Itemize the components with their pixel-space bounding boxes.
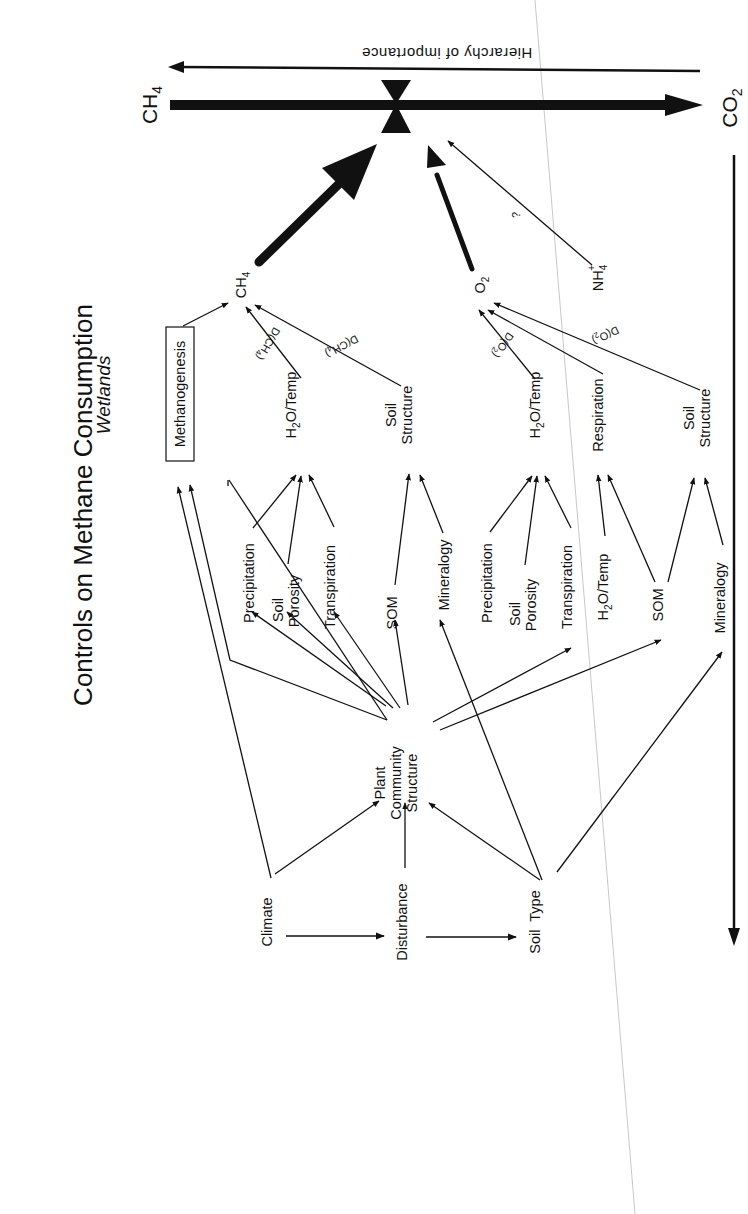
node-ch4-soil-porosity-line1: Soil (270, 598, 286, 622)
node-ch4: CH4 (233, 271, 252, 298)
node-o2: O2 (472, 276, 491, 293)
node-o2-transpiration: Transpiration (559, 545, 575, 629)
o2-proximal-arrow (427, 145, 472, 269)
node-o2-precipitation: Precipitation (479, 543, 495, 623)
ch4-diffusion-label-1: D(CH4) (252, 324, 283, 362)
node-ch4-transpiration: Transpiration (322, 545, 338, 629)
o2-diffusion-label-2: D(O2) (589, 321, 621, 347)
node-o2-h2o-temp: H2O/Temp (527, 372, 546, 439)
node-plant-community-line3: Structure (404, 754, 420, 813)
sink-co2-label: CO2 (718, 88, 745, 128)
node-respiration: Respiration (590, 378, 606, 451)
source-ch4-label: CH4 (138, 86, 165, 124)
node-plant-community-line2: Community (388, 746, 404, 820)
node-o2-h2o-temp-driver: H2O/Temp (595, 554, 614, 621)
o2-diffusion-label-1: D(O2) (488, 329, 517, 361)
node-nh4: NH4+ (586, 264, 609, 291)
node-climate: Climate (259, 897, 275, 946)
ch4-diffusion-label-2: D(CH4) (322, 330, 360, 360)
node-ch4-h2o-temp: H2O/Temp (283, 372, 302, 439)
ch4-proximal-arrow (259, 144, 377, 262)
node-methanogenesis: Methanogenesis (172, 341, 188, 447)
diagram-canvas: Controls on Methane Consumption Wetlands… (0, 0, 748, 1214)
node-o2-mineralogy: Mineralogy (712, 562, 728, 634)
nh4-proximal-arrow (448, 141, 592, 265)
node-o2-soil-structure-line1: Soil (681, 406, 697, 430)
diagram-subtitle: Wetlands (93, 355, 114, 434)
node-o2-som: SOM (650, 588, 666, 621)
paper-fold-line (535, 0, 635, 1214)
node-o2-soil-porosity-line2: Porosity (523, 578, 539, 631)
diagram-svg: Controls on Methane Consumption Wetlands… (0, 0, 748, 1214)
node-ch4-soil-structure-line1: Soil (383, 403, 399, 427)
node-soil-type: Soil Type (527, 890, 543, 953)
node-ch4-soil-porosity-line2: Porosity (286, 574, 302, 627)
hierarchy-label: Hierarchy of importance (362, 45, 533, 62)
node-ch4-soil-structure-line2: Structure (399, 386, 415, 445)
node-o2-soil-porosity-line1: Soil (507, 602, 523, 626)
node-disturbance: Disturbance (394, 883, 410, 960)
nh4-link-label: ? (510, 212, 522, 218)
node-o2-soil-structure-line2: Structure (697, 389, 713, 448)
ch4-to-co2-arrow (170, 94, 703, 116)
node-ch4-precipitation: Precipitation (241, 543, 257, 623)
node-plant-community-line1: Plant (372, 766, 388, 799)
node-ch4-mineralogy: Mineralogy (436, 539, 452, 611)
node-ch4-som: SOM (384, 596, 400, 629)
right-hierarchy-arrow (728, 155, 740, 946)
